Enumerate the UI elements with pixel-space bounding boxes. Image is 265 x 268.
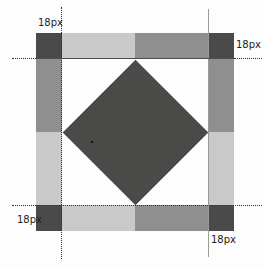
right-edge-bottom-half [208,132,234,205]
right-slice-guide-line [208,9,209,257]
top-slice-guide-line-left-segment [12,58,36,59]
left-edge-bottom-half [36,132,62,205]
right-edge-slice [208,59,234,205]
border-slice-diagram: 18px 18px 18px 18px [0,0,265,268]
bottom-slice-guide-line [12,205,262,206]
right-edge-top-half [208,59,234,132]
slice-label-bottom-left: 18px [17,214,42,226]
left-slice-guide-line [61,7,62,259]
bottom-edge-right-half [135,205,208,231]
top-slice-guide-line-right-segment [234,58,262,59]
corner-slice-bottom-right [208,205,234,231]
left-edge-slice [36,59,62,205]
left-edge-top-half [36,59,62,132]
slice-label-top-right: 18px [236,39,261,51]
top-edge-right-half [135,33,208,59]
top-slice-guide-line [36,58,234,59]
center-diamond [62,59,208,205]
slice-label-top-left: 18px [38,17,62,29]
corner-slice-top-right [208,33,234,59]
bottom-edge-left-half [62,205,135,231]
corner-slice-top-left [36,33,62,59]
artifact-dot [91,141,93,143]
top-edge-slice [62,33,208,59]
top-edge-left-half [62,33,135,59]
bottom-edge-slice [62,205,208,231]
source-image-square [36,33,234,231]
slice-label-bottom-right: 18px [211,234,236,246]
